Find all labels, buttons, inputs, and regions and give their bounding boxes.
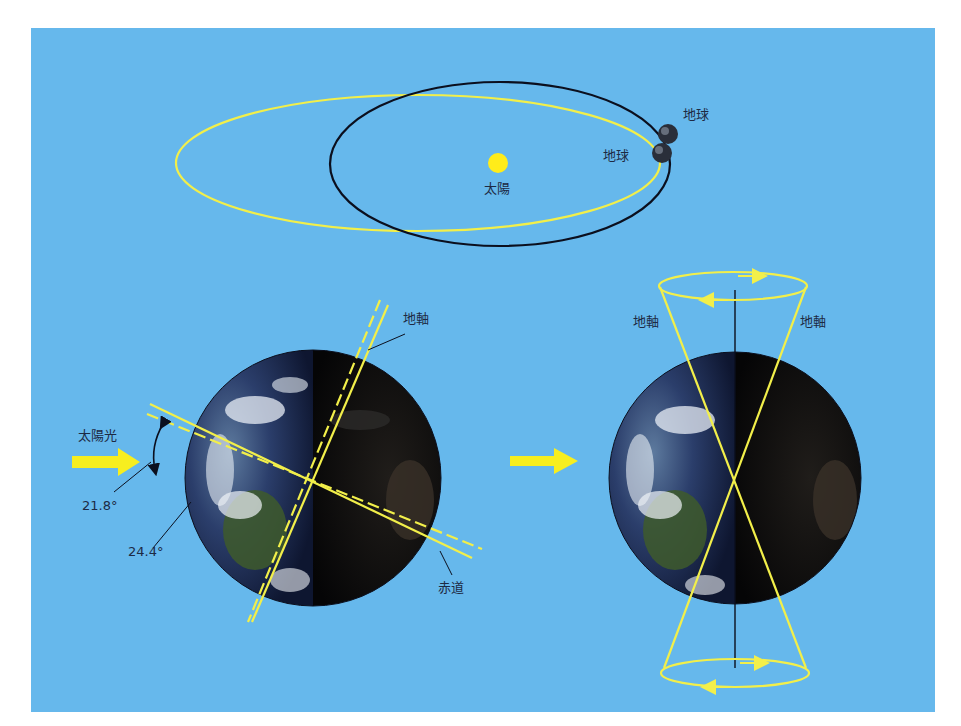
axis-label-right: 地軸 — [800, 314, 826, 329]
earth-label-inner: 地球 — [603, 148, 629, 163]
angle-label-24-4: 24.4° — [128, 544, 163, 559]
axis-label: 地軸 — [403, 311, 429, 326]
sun-label: 太陽 — [484, 181, 510, 196]
earth-marker-outer-icon — [658, 124, 678, 144]
axis-label-left: 地軸 — [633, 314, 659, 329]
equator-label: 赤道 — [438, 580, 464, 595]
angle-label-21-8: 21.8° — [82, 498, 117, 513]
earth-label-outer: 地球 — [683, 107, 709, 122]
earth-marker-inner-icon — [652, 143, 672, 163]
milankovitch-diagram: 太陽 地球 地球 太陽光 — [0, 0, 961, 726]
sunlight-label: 太陽光 — [78, 428, 117, 443]
sun-icon — [488, 153, 508, 173]
